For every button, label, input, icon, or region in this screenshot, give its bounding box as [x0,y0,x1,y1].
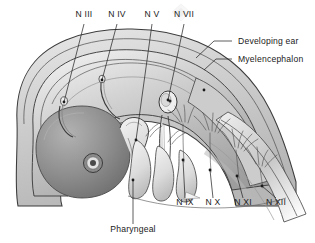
label-group-top: N III N IV N V N VII [76,9,194,19]
label-n12: N XII [266,197,286,207]
label-group-bottom-right: N IX N X N XI N XII [176,197,286,207]
label-myelencephalon: Myelencephalon [238,54,303,64]
label-n3: N III [76,9,93,19]
label-group-bottom-center: Pharyngeal [110,224,155,234]
optic-vesicle-eye [84,154,103,173]
label-n4: N IV [108,9,126,19]
label-n10: N X [206,197,221,207]
label-n7: N VII [174,9,194,19]
label-n5: N V [145,9,160,19]
label-developing-ear: Developing ear [238,36,299,46]
label-n9: N IX [176,197,194,207]
developing-ear-otic-vesicle [159,91,177,113]
embryo-cranial-nerve-diagram: N III N IV N V N VII Developing ear Myel… [0,0,315,243]
forebrain-vesicle [36,106,130,198]
label-group-right: Developing ear Myelencephalon [238,36,303,64]
label-n11: N XI [234,197,252,207]
label-pharyngeal: Pharyngeal [110,224,155,234]
